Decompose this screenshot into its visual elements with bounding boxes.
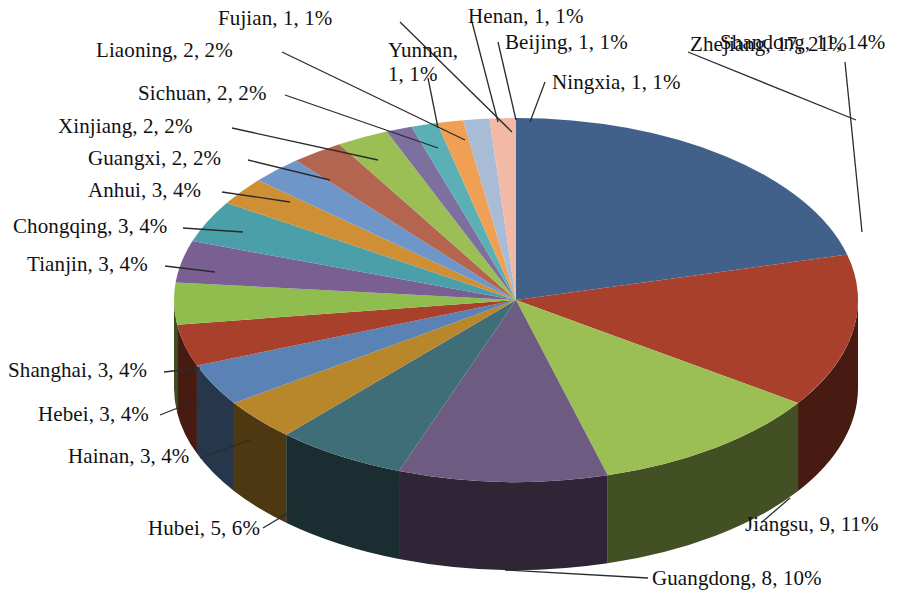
label-ningxia: Ningxia, 1, 1% [552,70,681,95]
label-guangdong: Guangdong, 8, 10% [652,566,822,591]
label-liaoning: Liaoning, 2, 2% [96,38,233,63]
label-hainan: Hainan, 3, 4% [68,444,189,469]
label-anhui: Anhui, 3, 4% [88,178,201,203]
label-tianjin: Tianjin, 3, 4% [27,252,148,277]
label-yunnan-line1: Yunnan, [388,38,458,63]
pie-top-group [174,118,858,482]
label-sichuan: Sichuan, 2, 2% [138,81,267,106]
pie-chart: Fujian, 1, 1% Liaoning, 2, 2% Sichuan, 2… [0,0,903,594]
label-yunnan-line2: 1, 1% [388,62,438,87]
label-guangxi: Guangxi, 2, 2% [88,146,221,171]
leader-guangdong [505,570,648,578]
pie-depth-guangdong [399,471,608,570]
label-hebei: Hebei, 3, 4% [38,402,149,427]
leader-shandong [845,62,862,232]
label-shanghai: Shanghai, 3, 4% [8,358,147,383]
pie-svg [0,0,903,594]
leader-ningxia [530,82,545,122]
label-shandong: Shandong, 11, 14% [720,30,885,55]
label-xinjiang: Xinjiang, 2, 2% [58,114,192,139]
leader-henan [472,22,498,122]
leader-zhejiang [688,52,856,120]
label-henan: Henan, 1, 1% [468,4,584,29]
label-chongqing: Chongqing, 3, 4% [13,214,167,239]
label-jiangsu: Jiangsu, 9, 11% [745,512,879,537]
label-beijing: Beijing, 1, 1% [505,30,628,55]
label-fujian: Fujian, 1, 1% [218,6,332,31]
label-hubei: Hubei, 5, 6% [148,516,260,541]
